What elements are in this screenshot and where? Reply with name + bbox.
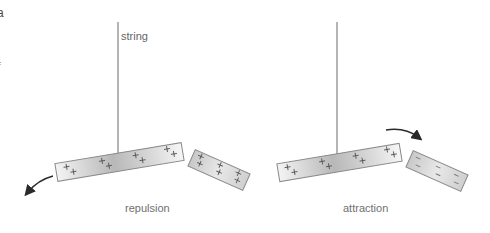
string-label: string	[121, 30, 148, 42]
left-hanging-rod	[55, 143, 184, 182]
right-hanging-rod	[277, 143, 402, 181]
repulsion-caption: repulsion	[125, 202, 170, 214]
arrow-toward-icon	[386, 129, 418, 137]
charge-diagram	[0, 0, 490, 233]
right-nearby-rod	[406, 151, 468, 192]
attraction-caption: attraction	[343, 202, 388, 214]
left-nearby-rod	[188, 150, 250, 191]
attraction-panel	[277, 22, 468, 191]
arrow-away-icon	[28, 176, 53, 192]
repulsion-panel	[28, 22, 250, 192]
